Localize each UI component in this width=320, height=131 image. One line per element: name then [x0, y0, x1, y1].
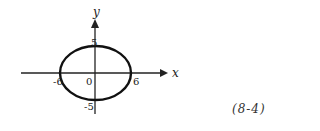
- tick-x-neg: -6: [53, 76, 63, 87]
- x-axis-arrow-icon: [160, 69, 168, 77]
- tick-x-pos: 6: [133, 76, 139, 87]
- tick-y-pos: 5: [91, 37, 97, 48]
- tick-origin: 0: [86, 76, 92, 87]
- x-axis-label: x: [172, 66, 179, 80]
- y-axis-label: y: [92, 5, 100, 19]
- equation-number: (8-4): [232, 102, 266, 116]
- tick-y-neg: -5: [84, 101, 94, 112]
- y-axis-arrow-icon: [91, 19, 99, 28]
